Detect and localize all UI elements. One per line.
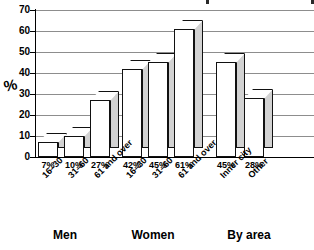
group-label-men: Men: [34, 228, 96, 242]
y-tick-label-70: 70: [4, 5, 30, 15]
y-tick-30: [30, 94, 35, 95]
y-tick-label-50: 50: [4, 47, 30, 57]
bar-front-face: [216, 62, 236, 157]
group-label-byarea: By area: [213, 228, 285, 242]
cropped-title-mark: [206, 0, 209, 4]
bar: [216, 53, 245, 157]
bar-front-face: [174, 29, 194, 157]
y-tick-60: [30, 31, 35, 32]
bar-front-face: [148, 62, 168, 157]
bar-side-face: [110, 91, 119, 148]
y-tick-label-20: 20: [4, 110, 30, 120]
y-axis-title: %: [2, 75, 19, 94]
y-tick-label-0: 0: [4, 152, 30, 162]
bar: [64, 127, 93, 157]
bar-side-face: [264, 89, 273, 148]
y-tick-20: [30, 115, 35, 116]
x-axis-baseline: [35, 157, 314, 158]
plot-area: 70 60 50 40 30 20 10 0 % 7%10%27%42%45%6…: [0, 0, 314, 250]
y-tick-label-10: 10: [4, 131, 30, 141]
cropped-title-mark: [311, 0, 314, 4]
bar: [90, 91, 119, 157]
bar-front-face: [90, 100, 110, 157]
y-tick-0: [30, 157, 35, 158]
bar: [148, 53, 177, 157]
y-tick-label-60: 60: [4, 26, 30, 36]
y-tick-40: [30, 73, 35, 74]
group-label-women: Women: [118, 228, 188, 242]
gridline-70: [35, 10, 314, 11]
y-tick-70: [30, 10, 35, 11]
bar-side-face: [194, 20, 203, 148]
y-tick-10: [30, 136, 35, 137]
bar-front-face: [38, 142, 58, 157]
bar: [38, 133, 67, 157]
y-axis-line: [35, 9, 36, 158]
bar-chart: 70 60 50 40 30 20 10 0 % 7%10%27%42%45%6…: [0, 0, 314, 250]
y-tick-50: [30, 52, 35, 53]
bar-front-face: [64, 136, 84, 157]
bar: [174, 20, 203, 157]
